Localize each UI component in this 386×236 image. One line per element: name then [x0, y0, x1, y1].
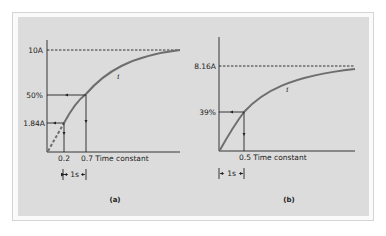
chart-b-curve — [220, 69, 355, 150]
arrow-icon — [243, 133, 246, 136]
chart-b-tick-0.5: 0.5 Time constant — [239, 153, 307, 162]
chart-a-curve — [64, 50, 180, 123]
chart-b-interval-marker: 1s — [219, 168, 244, 179]
chart-b: 8.16A 39% 0.5 Time constant i 1s (b) — [194, 37, 355, 204]
chart-a-interval-marker: 1s — [63, 169, 86, 180]
chart-a-label-1.84a: 1.84A — [23, 119, 46, 128]
chart-b-label-8.16a: 8.16A — [194, 62, 217, 71]
chart-a-interval-label: 1s — [70, 170, 79, 179]
chart-a-tick-0.2: 0.2 — [58, 154, 70, 163]
arrow-icon — [230, 111, 233, 114]
arrow-icon — [85, 120, 88, 123]
chart-a-caption: (a) — [109, 196, 120, 204]
chart-b-interval-label: 1s — [227, 169, 236, 178]
chart-a-initial-dashed — [48, 123, 64, 151]
chart-a-label-10a: 10A — [28, 46, 44, 55]
chart-a-curve-label: i — [117, 72, 120, 81]
arrow-icon — [65, 94, 68, 97]
chart-b-caption: (b) — [283, 196, 294, 204]
chart-a-tick-0.7: 0.7 Time constant — [81, 154, 149, 163]
arrow-icon — [53, 122, 56, 125]
chart-b-label-39pct: 39% — [199, 108, 216, 117]
chart-b-curve-label: i — [286, 85, 289, 94]
chart-a-label-50pct: 50% — [26, 91, 43, 100]
arrow-icon — [63, 132, 66, 135]
chart-a: 10A 50% 1.84A 0.2 0.7 Time constant i 1s… — [23, 40, 180, 204]
rl-current-diagram: 10A 50% 1.84A 0.2 0.7 Time constant i 1s… — [0, 0, 386, 236]
chart-a-box-0.7 — [47, 95, 86, 152]
